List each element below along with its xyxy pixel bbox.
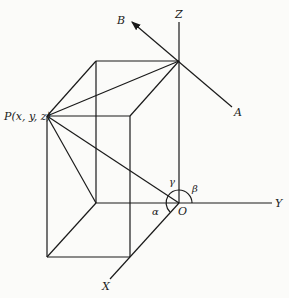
diagram-canvas: P(x, y, z) Z Y X O B A α β γ [0, 0, 289, 298]
p-to-origin [47, 116, 179, 203]
point-p-label: P(x, y, z) [3, 110, 51, 123]
z-axis-label: Z [174, 8, 183, 21]
x-axis-label: X [101, 280, 111, 293]
box-edge-bottom-left-depth [47, 203, 96, 257]
point-a-label: A [233, 106, 242, 119]
origin-label: O [178, 205, 187, 218]
gamma-label: γ [169, 176, 175, 187]
diagram-svg: P(x, y, z) Z Y X O B A α β γ [0, 0, 289, 298]
alpha-arc [166, 196, 170, 212]
alpha-label: α [152, 206, 159, 217]
line-ab [132, 22, 232, 107]
p-to-back-bottom [47, 116, 96, 203]
p-to-z-projection [47, 61, 179, 116]
gamma-arc [168, 190, 179, 196]
x-axis [110, 203, 179, 279]
beta-label: β [191, 183, 198, 194]
beta-arc [179, 190, 192, 203]
point-b-label: B [116, 14, 125, 27]
box-edge-top-left-depth [47, 61, 96, 116]
box-edge-top-right-depth [130, 61, 179, 116]
y-axis-label: Y [275, 197, 284, 210]
